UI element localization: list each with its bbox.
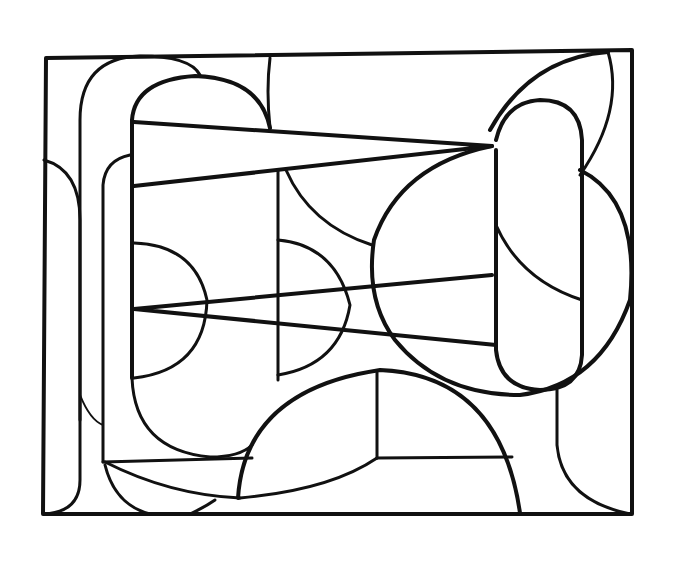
- upper-right-arc: [490, 52, 608, 130]
- bottom-diag: [240, 458, 377, 498]
- lower-wedge: [134, 275, 496, 345]
- bottom-horizontal: [377, 457, 512, 458]
- top-center-line: [268, 58, 270, 128]
- bottom-left-sweep: [105, 462, 240, 498]
- central-panel-bottom: [132, 378, 252, 457]
- left-edge-arc: [44, 160, 80, 514]
- line-art-drawing: [0, 0, 677, 566]
- right-pill: [496, 100, 582, 390]
- right-bottom-curve: [557, 390, 630, 514]
- upper-wedge: [134, 122, 492, 186]
- pill-inner-arc: [496, 225, 582, 300]
- bottom-left-line: [103, 458, 252, 462]
- center-half-circle: [278, 240, 350, 375]
- right-large-circle: [372, 146, 632, 395]
- second-column: [103, 155, 130, 462]
- left-rounded-column: [80, 56, 200, 420]
- upper-right-curve: [580, 52, 613, 175]
- left-column-inner-arc: [80, 395, 103, 425]
- upper-arc: [286, 170, 372, 245]
- bottom-left-arc: [105, 465, 215, 514]
